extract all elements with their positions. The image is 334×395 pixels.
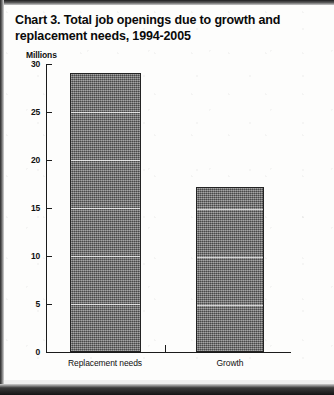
y-axis-tick-label-15: 15: [16, 203, 40, 213]
page-left-edge: [0, 0, 4, 395]
bar-gridline-15: [197, 209, 263, 210]
bar-gridline-5: [197, 305, 263, 306]
y-axis-tick-label-20: 20: [16, 155, 40, 165]
y-axis-tick-label-30: 30: [16, 59, 40, 69]
page-bottom-edge: [0, 384, 334, 395]
plot-area: 30 25 20 15 10 5 0 Replacement needs: [0, 0, 334, 395]
y-axis-tick-15: [46, 208, 52, 209]
bar-replacement-needs: [70, 73, 141, 352]
y-axis-tick-label-10: 10: [16, 251, 40, 261]
y-axis-tick-label-5: 5: [16, 299, 40, 309]
x-axis-line: [46, 352, 291, 353]
y-axis-tick-0: [46, 352, 52, 353]
bar-gridline-25: [71, 112, 140, 113]
bar-gridline-10: [197, 257, 263, 258]
y-axis-tick-label-0: 0: [16, 347, 40, 357]
y-axis-tick-5: [46, 304, 52, 305]
y-axis-tick-30: [46, 64, 52, 65]
chart-figure: Chart 3. Total job openings due to growt…: [0, 0, 334, 395]
x-axis-category-label-growth: Growth: [185, 358, 275, 368]
bar-gridline-20: [71, 160, 140, 161]
x-axis-category-label-replacement-needs: Replacement needs: [55, 358, 155, 368]
page-top-edge: [0, 0, 334, 5]
bar-gridline-15: [71, 208, 140, 209]
y-axis-tick-25: [46, 112, 52, 113]
x-axis-category-separator-tick: [165, 345, 166, 352]
bar-gridline-5: [71, 304, 140, 305]
y-axis-tick-label-25: 25: [16, 107, 40, 117]
bar-gridline-10: [71, 256, 140, 257]
y-axis-tick-10: [46, 256, 52, 257]
y-axis-tick-20: [46, 160, 52, 161]
bar-growth: [196, 187, 264, 352]
